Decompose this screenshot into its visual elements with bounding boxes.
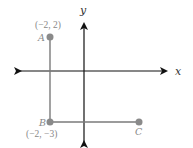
coordinate-plane-svg: x y (−2, 2) A B (−2, −3) C: [0, 0, 193, 148]
coordinate-plane-figure: x y (−2, 2) A B (−2, −3) C: [0, 0, 193, 148]
point-a-coord-label: (−2, 2): [35, 20, 61, 31]
x-axis-label: x: [175, 65, 182, 78]
y-axis-label: y: [79, 4, 87, 17]
point-a: [47, 34, 54, 41]
point-b-label: B: [38, 117, 46, 128]
point-b: [47, 119, 54, 126]
point-a-label: A: [37, 32, 45, 43]
point-c-label: C: [135, 126, 143, 137]
point-b-coord-label: (−2, −3): [26, 129, 57, 140]
point-c: [136, 119, 143, 126]
